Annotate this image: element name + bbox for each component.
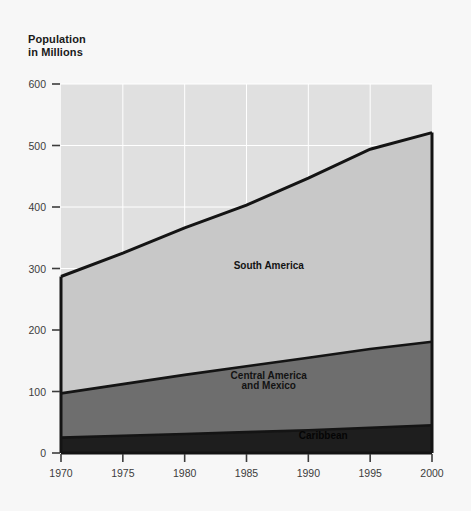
x-axis-tick-labels: 1970197519801985199019952000 <box>49 467 444 479</box>
x-tick-label: 2000 <box>420 467 444 479</box>
stacked-area-chart: 0100200300400500600 19701975198019851990… <box>0 0 471 511</box>
series-label-2: and Mexico <box>242 380 296 391</box>
y-tick-label: 600 <box>28 78 46 90</box>
x-tick-label: 1995 <box>358 467 382 479</box>
y-tick-label: 400 <box>28 201 46 213</box>
y-tick-label: 500 <box>28 140 46 152</box>
series-label-3: Caribbean <box>299 430 348 441</box>
y-tick-label: 0 <box>40 447 46 459</box>
y-tick-label: 100 <box>28 386 46 398</box>
x-tick-label: 1970 <box>49 467 73 479</box>
series-label-0: South America <box>234 260 305 271</box>
y-tick-label: 300 <box>28 263 46 275</box>
x-tick-label: 1990 <box>297 467 321 479</box>
y-axis-ticks <box>52 84 60 453</box>
x-tick-label: 1980 <box>173 467 197 479</box>
x-tick-label: 1975 <box>111 467 135 479</box>
y-axis-tick-labels: 0100200300400500600 <box>28 78 46 459</box>
x-tick-label: 1985 <box>235 467 259 479</box>
chart-container: Population in Millions 01002003004005006… <box>0 0 471 511</box>
y-tick-label: 200 <box>28 324 46 336</box>
x-axis-ticks <box>61 454 432 462</box>
